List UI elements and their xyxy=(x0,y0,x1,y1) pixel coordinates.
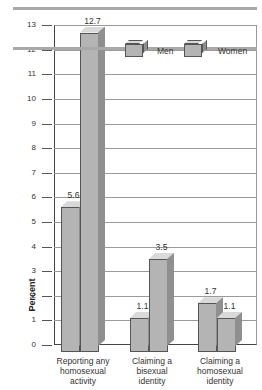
category-label: Claiming ahomosexualidentity xyxy=(180,356,260,386)
bar-side-face xyxy=(235,312,242,346)
legend-women-label: Women xyxy=(218,46,247,56)
y-tick xyxy=(42,271,52,272)
y-tick xyxy=(42,247,52,248)
bar-women xyxy=(149,259,168,352)
y-tick-label: 13 xyxy=(20,20,36,29)
category-label-line: Reporting any xyxy=(43,356,123,366)
y-tick xyxy=(42,148,52,149)
value-label: 1.7 xyxy=(196,286,226,296)
category-label-line: homosexual xyxy=(180,366,260,376)
y-tick-label: 7 xyxy=(20,168,36,177)
y-tick xyxy=(42,345,52,346)
category-label: Reporting anyhomosexualactivity xyxy=(43,356,123,386)
y-tick xyxy=(42,25,52,26)
y-tick xyxy=(42,173,52,174)
legend-women-swatch-icon xyxy=(184,44,202,57)
category-label-line: homosexual xyxy=(43,366,123,376)
y-tick-label: 5 xyxy=(20,217,36,226)
value-label: 3.5 xyxy=(147,242,177,252)
legend-men-label: Men xyxy=(157,46,174,56)
y-tick-label: 4 xyxy=(20,242,36,251)
y-tick-label: 9 xyxy=(20,119,36,128)
bar-women xyxy=(217,318,236,352)
y-tick xyxy=(42,99,52,100)
y-axis-label: Percent xyxy=(27,270,37,320)
y-tick xyxy=(42,222,52,223)
category-label-line: Claiming a xyxy=(180,356,260,366)
value-label: 1.1 xyxy=(215,301,245,311)
bar-women xyxy=(80,33,99,352)
bar-men xyxy=(130,318,149,352)
y-tick xyxy=(42,197,52,198)
y-tick-label: 11 xyxy=(20,69,36,78)
bar-side-face xyxy=(167,253,174,346)
top-rule xyxy=(13,7,257,10)
y-tick-label: 6 xyxy=(20,192,36,201)
bar-men xyxy=(61,207,80,352)
y-tick xyxy=(42,74,52,75)
y-tick-label: 10 xyxy=(20,94,36,103)
bar-side-face xyxy=(98,27,105,346)
y-tick xyxy=(42,124,52,125)
legend-men-swatch-icon xyxy=(125,44,143,57)
value-label: 12.7 xyxy=(78,16,108,26)
y-tick-label: 0 xyxy=(20,340,36,349)
category-label-line: identity xyxy=(180,376,260,386)
category-label-line: activity xyxy=(43,376,123,386)
y-tick xyxy=(42,320,52,321)
y-tick-label: 8 xyxy=(20,143,36,152)
y-tick xyxy=(42,296,52,297)
